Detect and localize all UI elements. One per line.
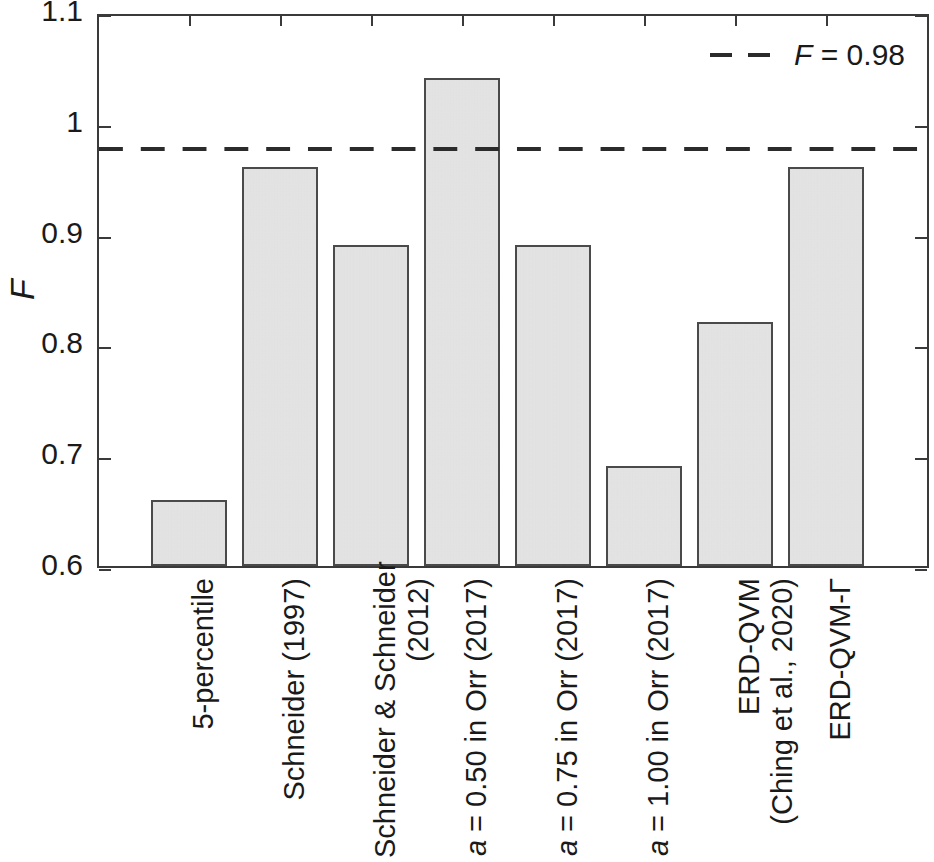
y-tick-label: 0.7 [0, 437, 83, 471]
bar [697, 322, 773, 566]
y-tick-label: 1.1 [0, 0, 83, 28]
y-tick-mark [99, 237, 111, 239]
x-tick-mark-top [826, 16, 828, 26]
x-tick-label: ERD-QVM(Ching et al., 2020) [733, 578, 799, 858]
legend-dashed-line-icon [708, 50, 782, 60]
y-tick-mark [99, 458, 111, 460]
y-tick-label: 0.6 [0, 548, 83, 582]
x-tick-label-line: a = 0.50 in Orr (2017) [460, 578, 493, 858]
bar [151, 500, 227, 566]
legend-variable-symbol: F [794, 38, 812, 71]
y-tick-label: 0.9 [0, 216, 83, 250]
x-tick-label: a = 1.00 in Orr (2017) [642, 578, 675, 858]
x-tick-mark-top [371, 16, 373, 26]
y-tick-mark [99, 15, 111, 17]
x-tick-mark-top [553, 16, 555, 26]
y-tick-label: 0.8 [0, 326, 83, 360]
x-tick-label-line: Schneider & Schneider [369, 578, 402, 858]
x-tick-mark-top [735, 16, 737, 26]
x-tick-label: a = 0.50 in Orr (2017) [460, 578, 493, 858]
y-tick-label: 1 [0, 105, 83, 139]
bar [333, 245, 409, 566]
x-tick-mark-top [189, 16, 191, 26]
y-tick-mark-right [915, 15, 927, 17]
x-tick-label-line: (2012) [402, 578, 435, 858]
x-tick-label-line: a = 0.75 in Orr (2017) [551, 578, 584, 858]
plot-area: F = 0.98 [97, 14, 929, 568]
x-tick-mark-top [280, 16, 282, 26]
x-tick-mark-top [462, 16, 464, 26]
x-tick-label-line: ERD-QVM [733, 578, 766, 858]
bar [788, 167, 864, 566]
y-tick-mark-right [915, 126, 927, 128]
bar-chart-figure: F 0.60.70.80.911.1 F = 0.98 5-percentile… [0, 0, 934, 862]
x-tick-label-line: Schneider (1997) [278, 578, 311, 858]
y-tick-mark [99, 347, 111, 349]
x-tick-label-line: ERD-QVM-Γ [824, 578, 857, 858]
bar [515, 245, 591, 566]
y-tick-mark-right [915, 237, 927, 239]
bar [242, 167, 318, 566]
x-tick-label: Schneider & Schneider(2012) [369, 578, 435, 858]
y-tick-mark [99, 126, 111, 128]
y-tick-mark [99, 569, 111, 571]
bar [606, 466, 682, 566]
x-tick-label-line: (Ching et al., 2020) [766, 578, 799, 858]
x-tick-label-line: 5-percentile [187, 578, 220, 858]
y-tick-mark-right [915, 458, 927, 460]
legend: F = 0.98 [708, 38, 905, 72]
x-tick-label: ERD-QVM-Γ [824, 578, 857, 858]
y-axis-label: F [3, 260, 42, 320]
x-tick-label: Schneider (1997) [278, 578, 311, 858]
y-tick-mark-right [915, 569, 927, 571]
x-tick-label-line: a = 1.00 in Orr (2017) [642, 578, 675, 858]
reference-line [99, 146, 927, 152]
legend-label: F = 0.98 [794, 38, 905, 72]
y-tick-mark-right [915, 347, 927, 349]
x-tick-mark-top [644, 16, 646, 26]
x-tick-label: 5-percentile [187, 578, 220, 858]
x-tick-label: a = 0.75 in Orr (2017) [551, 578, 584, 858]
